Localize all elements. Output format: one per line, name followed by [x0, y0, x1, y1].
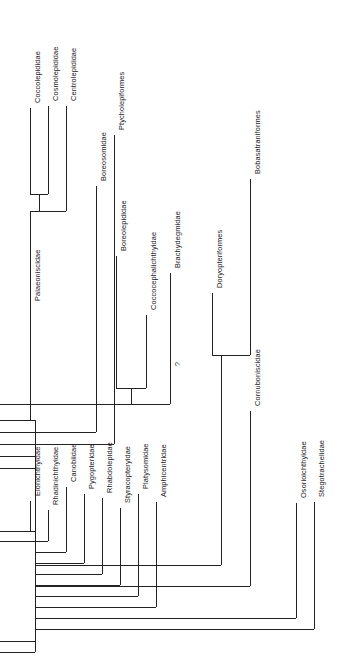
- tip-label-amphicentridae: Amphicentridae: [160, 444, 167, 497]
- tip-label-styracopteryidae: Styracopteryidae: [124, 446, 131, 503]
- tip-label-palaeoniscidae: Palaeoniscidae: [34, 249, 41, 301]
- tip-label-elonichthyidae: Elonichthyidae: [34, 447, 41, 496]
- tip-label-platysomidae: Platysomidae: [142, 443, 149, 489]
- tip-label-pygopteridae: Pygopteridae: [88, 444, 95, 489]
- tip-label-coccolepididae: Coccolepididae: [34, 51, 41, 103]
- tip-label-centrolepididae: Centrolepididae: [70, 48, 77, 101]
- cladogram-figure: Coccolepididae Cosmolepididae Centrolepi…: [0, 0, 340, 670]
- tip-label-cosmolepididae: Cosmolepididae: [52, 47, 59, 101]
- tip-label-rhabdolepidae: Rhabdolepidae: [106, 442, 113, 493]
- tip-label-ptycholepiformes: Ptycholepiformes: [118, 72, 125, 130]
- tip-label-rhadinichthyidae: Rhadinichthyidae: [52, 447, 59, 505]
- tip-label-osorioichthyidae: Osorioichthyidae: [300, 441, 307, 498]
- tip-label-cornuboniscidae: Cornuboniscidae: [254, 349, 261, 406]
- tip-label-canobiidae: Canobiidae: [70, 444, 77, 482]
- tip-label-bobasatraniformes: Bobasatraniformes: [254, 110, 261, 174]
- tip-label-boreolepididae: Boreolepididae: [120, 200, 127, 251]
- tip-label-brachydegmidae: Brachydegmidae: [174, 211, 181, 268]
- tip-label-boreosomidae: Boreosomidae: [100, 132, 107, 181]
- tip-label-stegotrachelidae: Stegotrachelidae: [318, 440, 325, 497]
- tip-label-coccocephalichthyidae: Coccocephalichthyidae: [150, 232, 157, 310]
- tip-label-doryopteriformes: Doryopteriformes: [216, 230, 223, 288]
- uncertainty-marker-brachydegmidae: ?: [174, 362, 181, 366]
